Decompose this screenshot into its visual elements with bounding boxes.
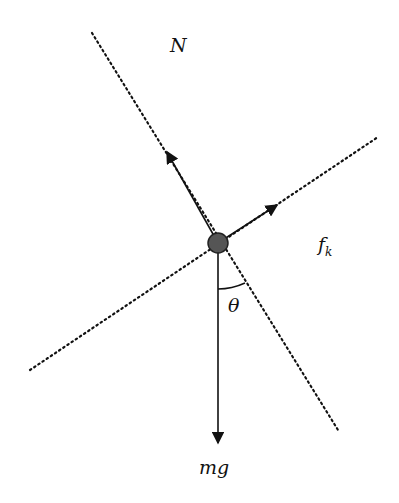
weight-label: mg [199,456,229,478]
normal-force-arrow [167,152,218,243]
friction-force-label: fk [318,233,332,259]
diagram-canvas [0,0,399,503]
angle-label: θ [228,294,239,316]
friction-subscript: k [325,245,332,259]
normal-force-label: N [170,34,187,56]
angle-arc [218,283,245,289]
friction-symbol: f [318,233,325,255]
object-ball [208,233,228,253]
free-body-diagram: N fk θ mg [0,0,399,503]
incline-axis-line [92,33,338,430]
